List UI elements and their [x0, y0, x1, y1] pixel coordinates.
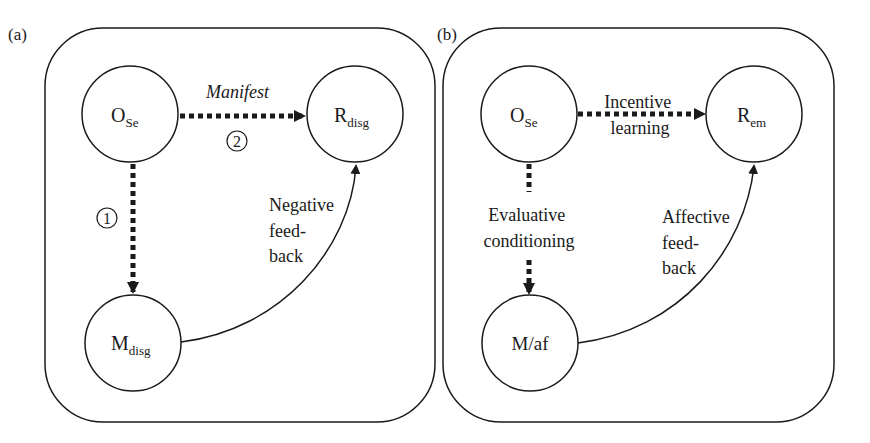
node-r-em: Rem	[706, 66, 802, 162]
panel-a-label: (a)	[8, 25, 27, 44]
diagram-canvas: (a) OSe Rdisg Mdisg Manifest 2	[0, 0, 870, 443]
node-sub: disg	[347, 115, 369, 130]
step-1-badge: 1	[97, 208, 117, 228]
node-m-disg: Mdisg	[85, 295, 181, 391]
svg-text:1: 1	[103, 210, 111, 227]
step-2-badge: 2	[227, 131, 247, 151]
node-main: R	[334, 104, 348, 126]
node-main: M/af	[512, 333, 550, 354]
node-r-disg: Rdisg	[307, 66, 403, 162]
panel-b-label: (b)	[437, 25, 457, 44]
node-main: O	[111, 104, 125, 126]
node-main: R	[737, 104, 751, 126]
panel-a: (a) OSe Rdisg Mdisg Manifest 2	[8, 25, 435, 422]
node-sub: Se	[125, 115, 138, 130]
node-o-se-a: OSe	[82, 66, 178, 162]
affective-feedback-label: Affective feed- back	[662, 207, 734, 278]
node-o-se-b: OSe	[481, 66, 577, 162]
node-main: M	[111, 332, 129, 354]
node-sub: Se	[524, 115, 537, 130]
negative-feedback-label: Negative feed- back	[269, 195, 338, 266]
manifest-label: Manifest	[205, 82, 270, 102]
evaluative-conditioning-label: Evaluative conditioning	[484, 205, 575, 251]
affective-feedback-arrow	[578, 166, 754, 343]
panel-b: (b) OSe Rem M/af Incentive learning Ev	[437, 25, 834, 422]
node-sub: em	[750, 115, 766, 130]
svg-text:2: 2	[233, 133, 241, 150]
node-m-af: M/af	[482, 295, 578, 391]
node-main: O	[510, 104, 524, 126]
node-sub: disg	[129, 343, 151, 358]
